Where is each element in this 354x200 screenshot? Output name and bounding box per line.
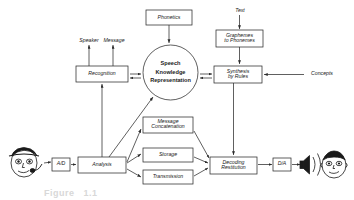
node-box-recognition <box>76 66 128 82</box>
arrow-analysis-to-storage <box>127 154 141 163</box>
diagram-vector-layer <box>0 0 354 200</box>
node-circle-speech-knowledge-representation <box>143 45 198 100</box>
node-box-phonetics <box>146 10 192 25</box>
loudspeaker-icon <box>300 154 321 176</box>
node-box-analysis <box>78 157 126 173</box>
node-box-message-concatenation <box>143 117 193 133</box>
node-box-decoding-restitution <box>210 157 257 174</box>
figure-caption: Figure 1.1 <box>44 188 98 198</box>
arrow-analysis-to-transmission <box>127 169 141 177</box>
arrow-transmission-to-decoding <box>194 168 208 176</box>
arrow-microphone-to-ad <box>44 162 51 163</box>
listener-face-icon <box>321 151 348 178</box>
diagram-canvas: Phonetics Text Graphemes to Phonemes Spe… <box>0 0 354 200</box>
node-box-transmission <box>143 170 193 184</box>
node-box-da-converter <box>273 158 291 171</box>
arrow-storage-to-decoding <box>194 157 208 163</box>
node-box-synthesis-by-rules <box>214 66 262 83</box>
node-box-ad-converter <box>52 158 70 171</box>
node-box-graphemes-to-phonemes <box>216 30 263 47</box>
arrow-message-concatenation-to-decoding <box>194 131 209 158</box>
arrow-analysis-to-message-concatenation <box>127 129 141 162</box>
node-box-storage <box>143 148 193 162</box>
talker-face-icon <box>9 148 42 178</box>
